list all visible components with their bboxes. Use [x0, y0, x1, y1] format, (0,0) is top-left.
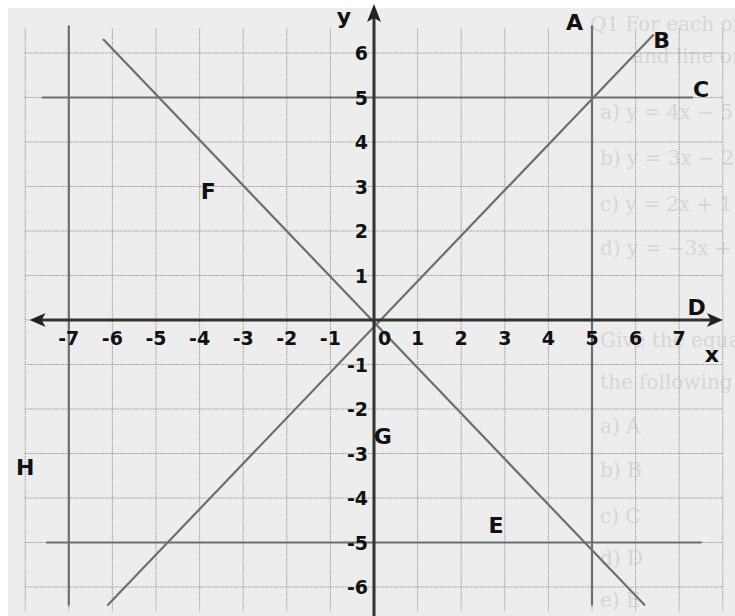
- x-tick-label: 7: [673, 327, 686, 349]
- x-tick-label: -5: [145, 327, 166, 349]
- line-label-a: A: [566, 10, 583, 35]
- y-tick-label: -4: [347, 487, 368, 509]
- y-tick-label: 5: [355, 87, 368, 109]
- x-tick-label: 6: [629, 327, 642, 349]
- x-tick-label: 2: [455, 327, 468, 349]
- y-tick-label: -1: [347, 354, 368, 376]
- x-tick-label: -4: [189, 327, 210, 349]
- x-tick-label: 1: [411, 327, 424, 349]
- y-tick-label: -5: [347, 532, 368, 554]
- line-label-f: F: [201, 179, 216, 204]
- x-tick-label: -1: [320, 327, 341, 349]
- line-label-c: C: [693, 77, 709, 102]
- y-tick-label: -6: [347, 576, 368, 598]
- y-tick-label: 1: [355, 265, 368, 287]
- line-label-h: H: [16, 455, 34, 480]
- graph-lines: [43, 26, 701, 605]
- coordinate-graph: -7-6-5-4-3-2-101234567654321-1-2-3-4-5-6…: [0, 0, 735, 616]
- line-label-e: E: [489, 513, 504, 538]
- line-label-b: B: [653, 28, 670, 53]
- x-tick-label: -7: [58, 327, 79, 349]
- x-tick-label: 3: [498, 327, 511, 349]
- x-tick-label: -2: [276, 327, 297, 349]
- axes: [30, 4, 723, 616]
- y-tick-label: 3: [355, 176, 368, 198]
- x-tick-label: -3: [233, 327, 254, 349]
- y-tick-label: 6: [355, 42, 368, 64]
- line-label-g: G: [374, 424, 392, 449]
- y-tick-label: 4: [355, 131, 368, 153]
- x-tick-label: 0: [378, 327, 391, 349]
- y-tick-label: 2: [355, 220, 368, 242]
- x-tick-label: 5: [585, 327, 598, 349]
- y-tick-label: -3: [347, 443, 368, 465]
- line-label-d: D: [688, 295, 706, 320]
- x-tick-label: -6: [102, 327, 123, 349]
- y-axis-label: y: [337, 4, 351, 29]
- x-axis-label: x: [705, 342, 719, 367]
- y-tick-label: -2: [347, 398, 368, 420]
- x-tick-label: 4: [542, 327, 555, 349]
